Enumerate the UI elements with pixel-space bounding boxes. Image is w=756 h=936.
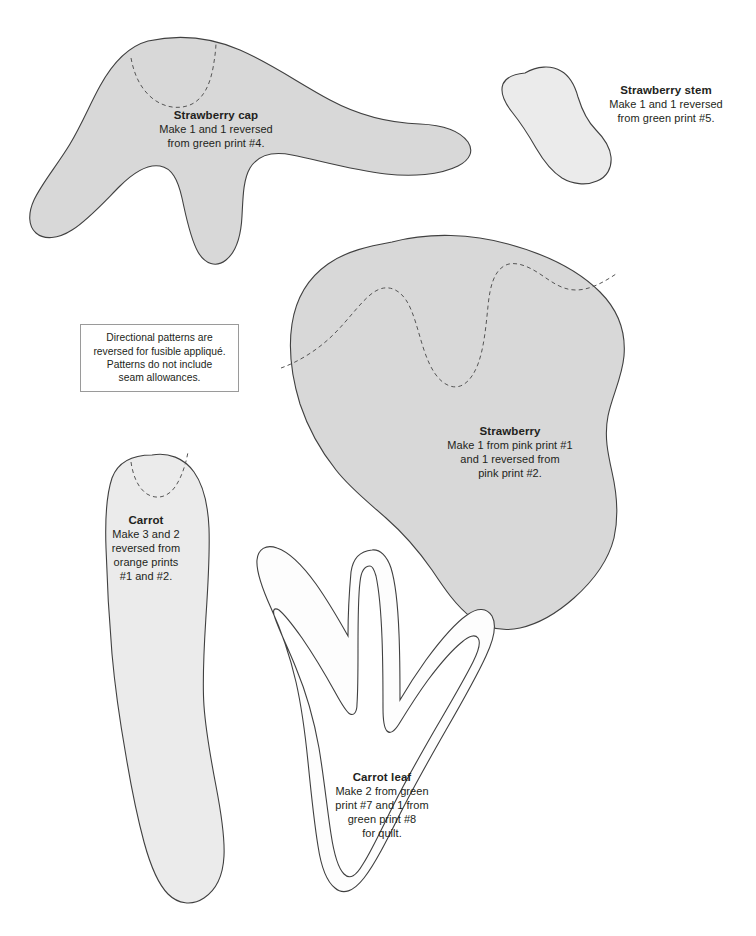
note-line-2: reversed for fusible appliqué. [93, 345, 225, 358]
piece-shape-strawberry-stem[interactable] [502, 67, 611, 184]
note-line-3: Patterns do not include [107, 358, 212, 371]
note-line-1: Directional patterns are [106, 331, 212, 344]
directional-patterns-note-box: Directional patterns are reversed for fu… [80, 324, 239, 392]
piece-shape-strawberry-cap[interactable] [30, 38, 471, 265]
piece-shape-carrot[interactable] [106, 452, 224, 903]
piece-shape-strawberry[interactable] [281, 235, 624, 629]
note-line-4: seam allowances. [119, 371, 201, 384]
pattern-shapes-canvas [0, 0, 756, 936]
pattern-sheet: Strawberry cap Make 1 and 1 reversed fro… [0, 0, 756, 936]
